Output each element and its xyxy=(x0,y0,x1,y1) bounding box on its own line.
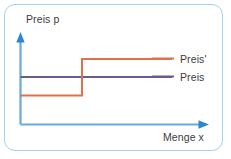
price-step-chart-figure: Preis p Menge x Preis' Preis xyxy=(0,0,231,159)
right-arrow-icon xyxy=(199,120,210,129)
legend-label-preis-prime: Preis' xyxy=(180,53,207,65)
x-axis-label: Menge x xyxy=(163,131,204,143)
legend-label-preis: Preis xyxy=(180,71,204,83)
y-axis-label: Preis p xyxy=(26,13,59,25)
up-arrow-icon xyxy=(16,32,24,43)
